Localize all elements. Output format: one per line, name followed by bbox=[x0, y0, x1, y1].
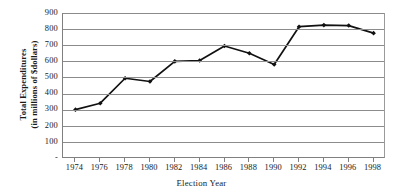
x-axis-tick-mark bbox=[273, 158, 274, 162]
y-axis-tick-label: 600 bbox=[32, 57, 58, 65]
x-axis-tick-mark bbox=[298, 158, 299, 162]
chart-container: Total Expenditures (in millions of $doll… bbox=[0, 0, 403, 196]
gridline bbox=[63, 77, 384, 78]
gridline bbox=[63, 13, 384, 14]
y-axis-title-line-1: Total Expenditures bbox=[18, 10, 29, 160]
series-polyline bbox=[75, 25, 373, 110]
x-axis-tick-mark bbox=[224, 158, 225, 162]
x-axis-tick-labels: 1974197619781980198219841986198819901992… bbox=[0, 163, 403, 177]
x-axis-tick-mark bbox=[199, 158, 200, 162]
data-point-marker bbox=[322, 23, 327, 28]
data-point-marker bbox=[371, 31, 376, 36]
data-point-marker bbox=[346, 23, 351, 28]
plot-area bbox=[62, 13, 385, 158]
data-series-line bbox=[63, 13, 386, 158]
y-axis-tick-label: 100 bbox=[32, 138, 58, 146]
y-axis-tick-label: 200 bbox=[32, 122, 58, 130]
gridline bbox=[63, 126, 384, 127]
x-axis-tick-mark bbox=[74, 158, 75, 162]
x-axis-title: Election Year bbox=[0, 178, 403, 188]
y-axis-tick-label: 400 bbox=[32, 89, 58, 97]
x-axis-tick-mark bbox=[124, 158, 125, 162]
gridline bbox=[63, 61, 384, 62]
gridline bbox=[63, 29, 384, 30]
x-axis-tick-mark bbox=[348, 158, 349, 162]
y-axis-tick-label: 300 bbox=[32, 105, 58, 113]
gridline bbox=[63, 45, 384, 46]
y-axis-tick-label: 900 bbox=[32, 9, 58, 17]
x-axis-tick-mark bbox=[99, 158, 100, 162]
gridline bbox=[63, 142, 384, 143]
x-axis-tick-label: 1998 bbox=[353, 163, 393, 173]
y-axis-tick-label: 500 bbox=[32, 73, 58, 81]
x-axis-tick-mark bbox=[174, 158, 175, 162]
gridline bbox=[63, 110, 384, 111]
x-axis-tick-mark bbox=[248, 158, 249, 162]
x-axis-tick-mark bbox=[373, 158, 374, 162]
x-axis-tick-mark bbox=[323, 158, 324, 162]
x-axis-tick-mark bbox=[149, 158, 150, 162]
y-axis-tick-label: 700 bbox=[32, 41, 58, 49]
gridline bbox=[63, 94, 384, 95]
y-axis-tick-label: 800 bbox=[32, 25, 58, 33]
